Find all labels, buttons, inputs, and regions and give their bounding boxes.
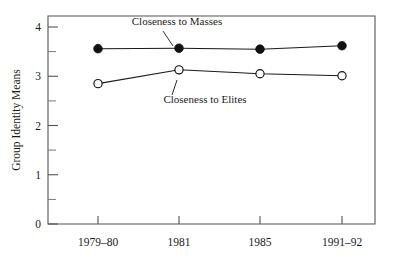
y-axis-label-2: 2 bbox=[35, 120, 41, 132]
y-axis-label-0: 0 bbox=[35, 218, 41, 230]
masses-annotation-label: Closeness to Masses bbox=[132, 15, 222, 27]
masses-point-3 bbox=[338, 41, 347, 50]
masses-point-1 bbox=[175, 44, 184, 53]
masses-point-2 bbox=[256, 45, 265, 54]
chart-container: 0 1 2 3 4 Group Identity Means 1979–80 1… bbox=[0, 0, 399, 261]
y-axis-label-4: 4 bbox=[35, 21, 41, 33]
y-axis-title: Group Identity Means bbox=[10, 69, 23, 171]
x-axis-label-1981: 1981 bbox=[168, 236, 191, 248]
y-axis-label-1: 1 bbox=[35, 169, 41, 181]
elites-annotation-label: Closeness to Elites bbox=[163, 93, 246, 105]
elites-point-3 bbox=[338, 72, 346, 80]
elites-point-0 bbox=[94, 80, 102, 88]
x-axis-label-1979-80: 1979–80 bbox=[78, 236, 119, 248]
elites-point-2 bbox=[256, 70, 264, 78]
group-identity-line-chart: 0 1 2 3 4 Group Identity Means 1979–80 1… bbox=[0, 0, 399, 261]
y-axis-label-3: 3 bbox=[35, 70, 41, 82]
chart-background bbox=[0, 0, 399, 261]
x-axis-label-1991-92: 1991–92 bbox=[322, 236, 363, 248]
x-axis-label-1985: 1985 bbox=[249, 236, 272, 248]
elites-point-1 bbox=[175, 66, 183, 74]
masses-point-0 bbox=[94, 44, 103, 53]
